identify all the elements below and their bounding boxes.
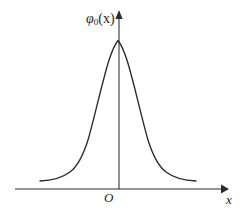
y-axis-arrow-icon — [115, 10, 122, 19]
bell-curve-path — [40, 41, 196, 182]
phi-symbol: φ — [86, 11, 94, 26]
origin-label: O — [104, 191, 113, 204]
bell-curve-figure: φ0(x) O x — [0, 0, 241, 219]
x-axis-label: x — [226, 193, 232, 206]
figure-canvas — [0, 0, 241, 219]
y-axis-label: φ0(x) — [86, 12, 115, 27]
phi-argument: (x) — [98, 11, 114, 26]
